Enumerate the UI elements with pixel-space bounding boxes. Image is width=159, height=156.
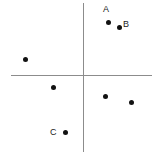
horizontal-axis — [11, 75, 152, 76]
data-point-3 — [51, 85, 56, 90]
point-label-b: B — [123, 20, 129, 29]
data-point-a — [106, 20, 111, 25]
data-point-2 — [23, 57, 28, 62]
data-point-6 — [129, 100, 134, 105]
data-point-5 — [103, 94, 108, 99]
point-label-a: A — [103, 5, 109, 14]
data-point-c — [63, 130, 68, 135]
scatter-plot-figure: ABC — [0, 0, 159, 156]
vertical-axis — [83, 3, 84, 152]
point-label-c: C — [50, 128, 57, 137]
data-point-b — [117, 25, 122, 30]
